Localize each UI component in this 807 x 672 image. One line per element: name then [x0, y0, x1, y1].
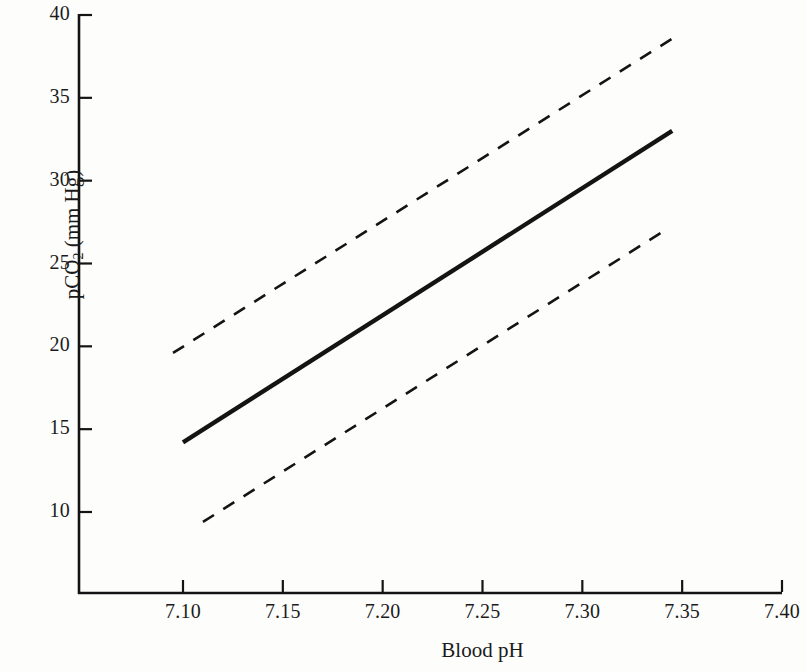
- x-tick-label-7.30: 7.30: [542, 600, 622, 623]
- upper-confidence-limit: [173, 35, 678, 353]
- chart-figure: 10152025303540 7.107.157.207.257.307.357…: [0, 0, 807, 672]
- x-axis-title: Blood pH: [423, 638, 543, 663]
- regression-line: [183, 131, 672, 442]
- x-tick-label-7.40: 7.40: [742, 600, 807, 623]
- x-tick-label-7.15: 7.15: [243, 600, 323, 623]
- lower-confidence-limit: [203, 232, 662, 522]
- y-axis-title-main: pCO: [60, 260, 84, 300]
- axes-group: [78, 14, 782, 594]
- plot-canvas: [0, 0, 807, 672]
- x-tick-label-7.20: 7.20: [343, 600, 423, 623]
- x-tick-label-7.10: 7.10: [143, 600, 223, 623]
- y-axis-title-subscript: 2: [71, 253, 86, 260]
- y-axis-title-unit: (mm Hg): [60, 170, 84, 253]
- y-tick-label-10: 10: [0, 499, 70, 522]
- x-tick-marks: [183, 580, 782, 592]
- y-tick-label-15: 15: [0, 416, 70, 439]
- x-tick-label-7.35: 7.35: [642, 600, 722, 623]
- y-tick-label-40: 40: [0, 2, 70, 25]
- x-tick-label-7.25: 7.25: [443, 600, 523, 623]
- y-axis-title: pCO2 (mm Hg): [60, 105, 85, 365]
- data-series-layer: [173, 35, 678, 522]
